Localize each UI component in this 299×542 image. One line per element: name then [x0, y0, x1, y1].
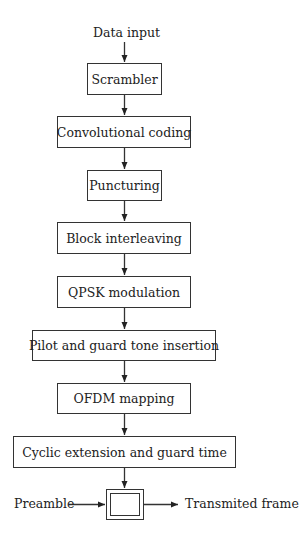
- data-input-label: Data input: [93, 26, 160, 40]
- block-label: Convolutional coding: [57, 125, 191, 140]
- block-cyclic-extension-guard-time: Cyclic extension and guard time: [13, 436, 236, 468]
- block-label: Cyclic extension and guard time: [22, 445, 227, 460]
- block-label: Scrambler: [91, 72, 157, 87]
- block-label: Pilot and guard tone insertion: [29, 338, 219, 353]
- block-label: QPSK modulation: [68, 285, 180, 300]
- frame-combiner-block: [106, 489, 144, 520]
- block-ofdm-mapping: OFDM mapping: [57, 383, 191, 414]
- block-label: Puncturing: [89, 178, 160, 193]
- block-convolutional-coding: Convolutional coding: [57, 116, 191, 148]
- preamble-label: Preamble: [14, 497, 75, 511]
- block-qpsk-modulation: QPSK modulation: [57, 276, 191, 308]
- block-label: OFDM mapping: [73, 391, 174, 406]
- transmitted-frame-label: Transmited frame: [185, 497, 299, 511]
- block-block-interleaving: Block interleaving: [57, 222, 191, 254]
- block-pilot-guard-tone-insertion: Pilot and guard tone insertion: [32, 330, 216, 361]
- block-scrambler: Scrambler: [87, 63, 162, 95]
- frame-combiner-inner: [110, 493, 140, 516]
- block-puncturing: Puncturing: [87, 170, 162, 201]
- block-label: Block interleaving: [66, 231, 182, 246]
